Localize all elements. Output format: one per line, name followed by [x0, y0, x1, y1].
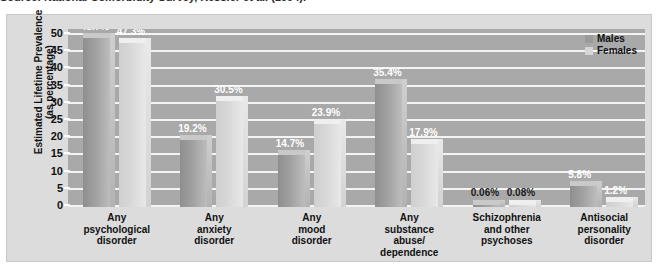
bar-front-face — [119, 43, 146, 207]
y-tick-mark — [64, 84, 70, 86]
bar-males — [83, 33, 115, 207]
x-category-label: Any psychological disorder — [68, 212, 166, 247]
legend: MalesFemales — [585, 34, 637, 56]
bar-front-face — [314, 124, 341, 207]
plot-area: 48.7%47.3%19.2%30.5%14.7%23.9%35.4%17.9%… — [68, 29, 645, 207]
bar-value-label: 47.3% — [117, 29, 145, 37]
y-tick-mark — [64, 66, 70, 68]
bar-value-label: 14.7% — [276, 138, 304, 149]
bar-group: 19.2%30.5% — [166, 29, 264, 207]
y-tick-label: 20 — [37, 130, 63, 142]
legend-item: Males — [585, 34, 637, 44]
bar-front-face — [473, 205, 500, 207]
bar-side-face — [438, 139, 443, 207]
y-tick-mark — [64, 152, 70, 154]
bar-group: 48.7%47.3% — [68, 29, 166, 207]
bar-group: 14.7%23.9% — [263, 29, 361, 207]
bar-side-face — [110, 33, 115, 207]
y-tick-label: 15 — [37, 147, 63, 159]
bar-side-face — [500, 200, 505, 207]
bar-side-face — [305, 150, 310, 207]
y-tick-label: 45 — [37, 44, 63, 56]
x-category-label: Schizophrenia and other psychoses — [458, 212, 556, 247]
bar-side-face — [341, 119, 346, 207]
bar-front-face — [411, 144, 438, 207]
bar-group: 0.06%0.08% — [458, 29, 556, 207]
bar-side-face — [146, 38, 151, 207]
legend-item: Females — [585, 46, 637, 56]
bar-value-label: 5.8% — [568, 169, 591, 180]
bar-value-label: 35.4% — [373, 67, 401, 78]
y-tick-mark — [64, 204, 70, 206]
x-category-label: Antisocial personality disorder — [556, 212, 654, 247]
bar-front-face — [180, 140, 207, 207]
bar-front-face — [570, 186, 597, 207]
bar-males — [375, 79, 407, 207]
legend-label: Males — [597, 34, 625, 44]
y-tick-label: 0 — [37, 199, 63, 211]
bar-males — [180, 135, 212, 207]
x-axis-categories: Any psychological disorderAny anxiety di… — [68, 212, 645, 260]
bar-front-face — [216, 101, 243, 207]
y-tick-label: 25 — [37, 113, 63, 125]
bar-side-face — [633, 197, 638, 207]
y-tick-label: 35 — [37, 79, 63, 91]
y-tick-mark — [64, 32, 70, 34]
bar-groups: 48.7%47.3%19.2%30.5%14.7%23.9%35.4%17.9%… — [68, 29, 645, 207]
bar-males — [570, 181, 602, 207]
bar-side-face — [207, 135, 212, 207]
y-tick-label: 30 — [37, 96, 63, 108]
bar-females — [509, 200, 541, 207]
y-tick-mark — [64, 118, 70, 120]
y-axis-ticks: 50454035302520151050 — [37, 29, 63, 207]
y-tick-label: 40 — [37, 61, 63, 73]
bar-side-face — [597, 181, 602, 207]
bar-value-label: 0.06% — [471, 187, 499, 198]
bar-value-label: 1.2% — [604, 185, 627, 196]
y-tick-mark — [64, 170, 70, 172]
bar-group: 35.4%17.9% — [361, 29, 459, 207]
y-tick-label: 50 — [37, 27, 63, 39]
bar-value-label: 17.9% — [409, 127, 437, 138]
bar-females — [411, 139, 443, 207]
bar-value-label: 30.5% — [214, 84, 242, 95]
bar-value-label: 0.08% — [507, 187, 535, 198]
bar-front-face — [606, 202, 633, 207]
bar-side-face — [243, 96, 248, 207]
x-category-label: Any substance abuse/ dependence — [361, 212, 459, 258]
x-category-label: Any anxiety disorder — [166, 212, 264, 247]
bar-front-face — [509, 205, 536, 207]
bar-side-face — [402, 79, 407, 207]
bar-value-label: 48.7% — [81, 29, 109, 32]
male-swatch — [585, 35, 593, 43]
y-tick-mark — [64, 187, 70, 189]
y-tick-label: 10 — [37, 165, 63, 177]
female-swatch — [585, 47, 593, 55]
bar-females — [216, 96, 248, 207]
bar-females — [314, 119, 346, 207]
y-tick-mark — [64, 49, 70, 51]
chart-figure: Source: National Comorbidity Survey, Kes… — [0, 0, 658, 279]
bar-females — [119, 38, 151, 207]
bar-front-face — [375, 84, 402, 207]
y-tick-label: 5 — [37, 182, 63, 194]
bar-females — [606, 197, 638, 207]
figure-caption: Source: National Comorbidity Survey, Kes… — [0, 0, 658, 3]
bar-value-label: 23.9% — [312, 107, 340, 118]
x-category-label: Any mood disorder — [263, 212, 361, 247]
bar-males — [473, 200, 505, 207]
bar-front-face — [278, 155, 305, 207]
bar-value-label: 19.2% — [178, 123, 206, 134]
bar-males — [278, 150, 310, 207]
bar-side-face — [536, 200, 541, 207]
y-tick-mark — [64, 135, 70, 137]
legend-label: Females — [597, 46, 637, 56]
bar-front-face — [83, 38, 110, 207]
chart-panel: Estimated Lifetime Prevalence(as percent… — [6, 14, 652, 262]
y-tick-mark — [64, 101, 70, 103]
